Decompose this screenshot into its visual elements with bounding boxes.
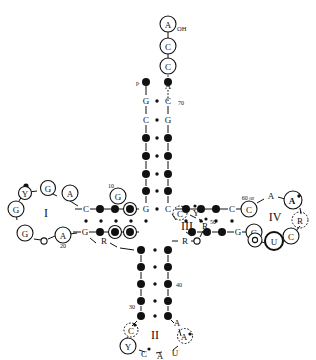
base-dot — [164, 152, 172, 160]
base-label-A-anticodon: A — [157, 351, 164, 360]
base-dot — [96, 228, 104, 236]
base-label-A-dloop: A — [67, 189, 74, 199]
base-dot — [164, 187, 172, 195]
pair-dot — [230, 219, 233, 222]
base-label-C-tloop-start: C — [246, 205, 252, 215]
base-label-G-tstem: G — [235, 227, 242, 237]
anticodon-arm: R 30 40 — [90, 236, 193, 360]
pair-dot — [155, 154, 158, 157]
loop-numeral-IV: IV — [269, 210, 282, 224]
acceptor-stem-pairs: p G C 70 C G G C — [136, 78, 184, 214]
base-label-R-varloop-2: R — [182, 236, 188, 246]
base-dot — [164, 134, 172, 142]
base-dot — [142, 170, 150, 178]
base-dot — [126, 228, 134, 236]
position-number-20: 20 — [60, 243, 66, 249]
base-label-C3: C — [143, 115, 149, 125]
trna-structure-figure: A OH C C A p G C 70 C G — [0, 0, 316, 360]
base-dot — [164, 246, 172, 254]
base-label-G69: G — [165, 115, 172, 125]
position-number-40: 40 — [176, 282, 182, 288]
loop-numeral-III: III — [181, 219, 193, 233]
base-label-C-tstem: C — [229, 204, 235, 214]
base-circle-small-modified — [41, 238, 47, 244]
base-label-A20: A — [60, 231, 67, 241]
modification-dot — [182, 206, 185, 209]
base-label-G10: G — [115, 192, 122, 202]
pair-dot — [153, 248, 156, 251]
pair-dot — [155, 136, 158, 139]
base-label-C-dstem: C — [83, 204, 89, 214]
base-dot — [164, 263, 172, 271]
trna-cloverleaf-svg: A OH C C A p G C 70 C G — [0, 0, 316, 360]
base-dot — [142, 187, 150, 195]
d-arm: C G 10 G A G — [8, 181, 148, 250]
base-label-C-tloop: C — [288, 232, 294, 242]
base-label-A76: A — [165, 20, 172, 30]
base-dot — [111, 228, 119, 236]
base-dot — [218, 228, 226, 236]
position-number-60-or: 60 or — [242, 195, 255, 201]
base-label-A-tloop-conserved: A — [289, 196, 296, 206]
base-label-G-dloop-2: G — [13, 205, 20, 215]
base-label-G-dloop: G — [45, 184, 52, 194]
base-dot — [164, 297, 172, 305]
pair-dot — [114, 219, 117, 222]
pair-dot — [214, 219, 217, 222]
modification-dot — [133, 323, 136, 326]
base-label-C75: C — [165, 42, 171, 52]
base-dot — [137, 246, 145, 254]
base-dot — [96, 205, 104, 213]
pair-dot — [153, 265, 156, 268]
position-number-10: 10 — [108, 183, 114, 189]
base-dot — [164, 170, 172, 178]
base-dot — [126, 205, 134, 213]
base-dot-C72 — [164, 78, 172, 86]
base-label-A-anticodon-loop: A — [181, 332, 188, 342]
base-label-C-junction-right: C — [165, 204, 171, 214]
base-label-C74: C — [165, 62, 171, 72]
pair-dot — [155, 172, 158, 175]
modification-dot — [193, 204, 196, 207]
base-label-U-anticodon: U — [172, 348, 179, 358]
base-label-Y-dloop: Y — [22, 189, 29, 199]
base-label-R-varloop: R — [202, 221, 208, 231]
acceptor-3prime-single-strand: A OH C C A — [160, 16, 187, 101]
base-dot — [137, 312, 145, 320]
pair-dot — [155, 99, 158, 102]
base-label-R-tloop: R — [297, 216, 303, 226]
position-number-30: 30 — [129, 304, 135, 310]
pair-dot — [153, 299, 156, 302]
terminal-oh-label: OH — [177, 25, 187, 32]
pair-dot — [129, 219, 132, 222]
modification-dot — [204, 217, 207, 220]
loop-numeral-I: I — [44, 206, 48, 220]
pair-dot — [99, 219, 102, 222]
base-label-G-junction-left: G — [143, 204, 150, 214]
base-label-C70: C — [165, 96, 171, 106]
pair-dot — [155, 207, 158, 210]
base-dot — [164, 312, 172, 320]
pair-dot — [84, 219, 87, 222]
phosphate-5prime-label: p — [136, 79, 139, 86]
position-number-70: 70 — [178, 100, 184, 106]
base-label-U-tloop: U — [271, 237, 278, 247]
base-dot — [137, 297, 145, 305]
base-label-R-junction-left: R — [101, 236, 107, 246]
base-label-G-dstem: G — [82, 227, 89, 237]
modification-dot — [297, 194, 300, 197]
base-label-C-anticodon: C — [141, 349, 147, 359]
base-label-G-dloop-3: G — [22, 229, 29, 239]
pair-dot — [153, 282, 156, 285]
base-dot — [164, 280, 172, 288]
base-dot — [137, 263, 145, 271]
pair-dot — [144, 219, 147, 222]
base-label-Y-anticodon-loop: Y — [125, 342, 132, 352]
base-label-G2: G — [143, 96, 150, 106]
base-dot — [212, 205, 220, 213]
base-dot — [142, 134, 150, 142]
base-circle-small-varloop — [194, 238, 200, 244]
base-dot — [137, 280, 145, 288]
base-dot-G1 — [142, 78, 150, 86]
modification-dot — [188, 332, 191, 335]
